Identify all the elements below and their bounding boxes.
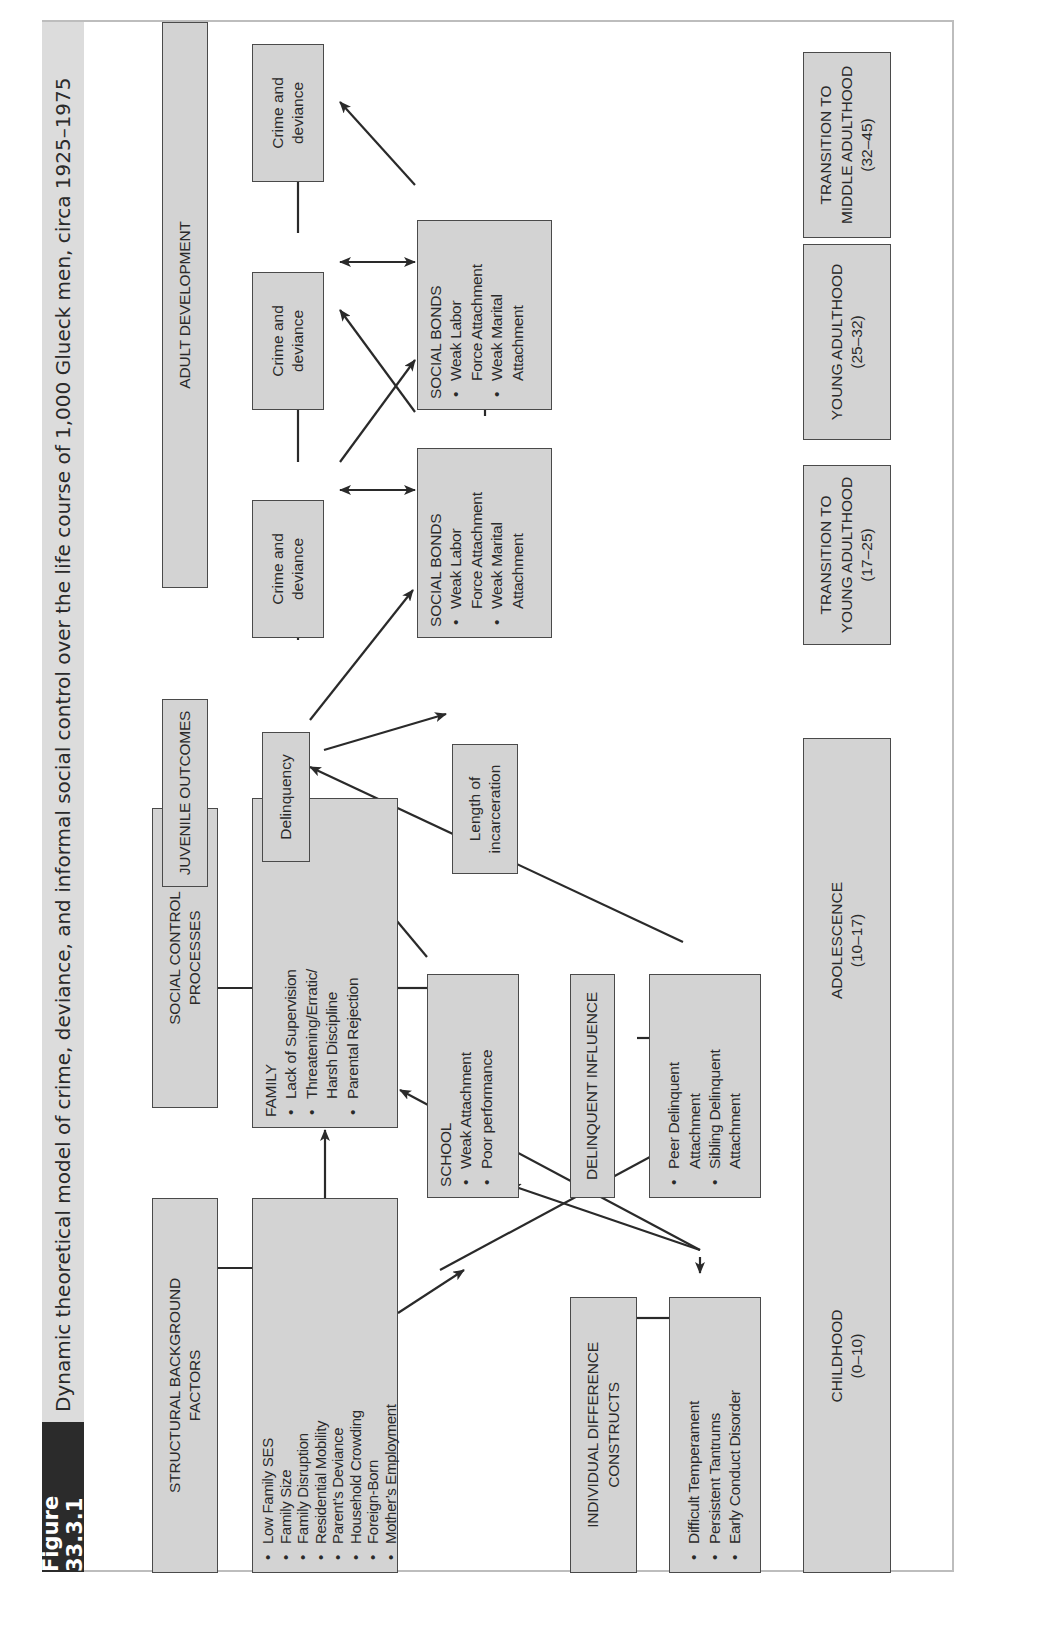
header-line: FACTORS: [185, 1350, 205, 1422]
crime-line: Crime and: [268, 305, 288, 377]
header-individual-difference: INDIVIDUAL DIFFERENCE CONSTRUCTS: [570, 1297, 637, 1573]
header-adult-development: ADULT DEVELOPMENT: [162, 22, 208, 588]
individual-constructs-box: Difficult Temperament Persistent Tantrum…: [669, 1297, 761, 1573]
arrow-bonds2-crime3: [340, 102, 415, 185]
individual-item: Difficult Temperament: [684, 1390, 704, 1562]
delinquent-influence-item: Sibling Delinquent Attachment: [705, 1039, 746, 1187]
timeline-young-adulthood: YOUNG ADULTHOOD (25–32): [803, 244, 891, 440]
crime-deviance-box-1: Crime and deviance: [252, 500, 324, 638]
arrow-delinquency-bonds1: [310, 590, 413, 720]
timeline-range: (32–45): [857, 118, 877, 171]
arrow-crime1-bonds2: [340, 360, 415, 462]
structural-item: Residential Mobility: [312, 1209, 330, 1562]
header-line: ADULT DEVELOPMENT: [175, 221, 195, 388]
individual-item: Early Conduct Disorder: [725, 1390, 745, 1562]
school-item: Poor performance: [477, 985, 497, 1187]
header-delinquent-influence: DELINQUENT INFLUENCE: [570, 974, 615, 1198]
timeline-transition-middle-adulthood: TRANSITION TO MIDDLE ADULTHOOD (32–45): [803, 52, 891, 238]
family-item: Parental Rejection: [343, 809, 363, 1117]
structural-factors-box: Low Family SES Family Size Family Disrup…: [252, 1198, 398, 1573]
incarceration-line: Length of: [465, 777, 485, 842]
structural-item: Foreign-Born: [364, 1209, 382, 1562]
timeline-adolescence: ADOLESCENCE (10–17): [803, 738, 891, 1142]
figure-canvas: Figure 33.3.1 Dynamic theoretical model …: [0, 0, 1038, 1650]
incarceration-line: incarceration: [485, 765, 505, 854]
structural-item: Mother’s Employment: [382, 1209, 400, 1562]
social-bonds-title: SOCIAL BONDS: [426, 459, 446, 627]
structural-item: Household Crowding: [347, 1209, 365, 1562]
social-bonds-box-2: SOCIAL BONDS Weak Labor Force Attachment…: [417, 220, 552, 410]
header-line: INDIVIDUAL DIFFERENCE: [583, 1342, 603, 1528]
crime-line: deviance: [288, 310, 308, 372]
arrow-structural-school: [398, 1270, 464, 1313]
social-bonds-item: Weak Labor Force Attachment: [446, 489, 487, 627]
timeline-label: ADOLESCENCE: [827, 882, 847, 999]
timeline-range: (25–32): [847, 315, 867, 368]
social-bonds-item: Weak Labor Force Attachment: [446, 261, 487, 399]
crime-line: Crime and: [268, 77, 288, 149]
timeline-range: (10–17): [847, 914, 867, 967]
social-bonds-item: Weak Marital Attachment: [487, 271, 528, 399]
timeline-label: TRANSITION TO: [816, 495, 836, 614]
individual-item: Persistent Tantrums: [705, 1390, 725, 1562]
timeline-label: YOUNG ADULTHOOD: [837, 477, 857, 633]
delinquent-influence-box: Peer Delinquent Attachment Sibling Delin…: [649, 974, 761, 1198]
header-line: DELINQUENT INFLUENCE: [582, 992, 602, 1180]
timeline-label: CHILDHOOD: [827, 1310, 847, 1403]
timeline-childhood: CHILDHOOD (0–10): [803, 1140, 891, 1573]
delinquency-label: Delinquency: [276, 754, 296, 839]
header-line: JUVENILE OUTCOMES: [175, 711, 195, 876]
timeline-label: YOUNG ADULTHOOD: [827, 264, 847, 420]
timeline-range: (17–25): [857, 528, 877, 581]
header-juvenile-outcomes: JUVENILE OUTCOMES: [162, 699, 208, 887]
arrow-bonds1-crime2: [340, 310, 415, 412]
structural-item: Parent’s Deviance: [329, 1209, 347, 1562]
social-bonds-box-1: SOCIAL BONDS Weak Labor Force Attachment…: [417, 448, 552, 638]
header-line: CONSTRUCTS: [604, 1382, 624, 1488]
school-title: SCHOOL: [436, 985, 456, 1187]
social-bonds-title: SOCIAL BONDS: [426, 231, 446, 399]
timeline-label: MIDDLE ADULTHOOD: [837, 66, 857, 224]
crime-deviance-box-2: Crime and deviance: [252, 272, 324, 410]
structural-item: Family Disruption: [294, 1209, 312, 1562]
header-structural-background: STRUCTURAL BACKGROUND FACTORS: [152, 1198, 218, 1573]
delinquency-box: Delinquency: [262, 732, 310, 862]
timeline-transition-young-adulthood: TRANSITION TO YOUNG ADULTHOOD (17–25): [803, 465, 891, 645]
family-item: Threatening/Erratic/ Harsh Discipline: [302, 969, 343, 1117]
structural-item: Low Family SES: [259, 1209, 277, 1562]
delinquent-influence-item: Peer Delinquent Attachment: [664, 1049, 705, 1187]
crime-line: Crime and: [268, 533, 288, 605]
crime-line: deviance: [288, 538, 308, 600]
arrow-delinquency-incarceration: [324, 714, 446, 750]
header-line: PROCESSES: [185, 911, 205, 1006]
incarceration-box: Length of incarceration: [452, 744, 518, 874]
timeline-label: TRANSITION TO: [816, 85, 836, 204]
header-line: SOCIAL CONTROL: [165, 891, 185, 1025]
crime-deviance-box-3: Crime and deviance: [252, 44, 324, 182]
structural-item: Family Size: [277, 1209, 295, 1562]
header-line: STRUCTURAL BACKGROUND: [165, 1278, 185, 1493]
school-item: Weak Attachment: [456, 985, 476, 1187]
social-bonds-item: Weak Marital Attachment: [487, 499, 528, 627]
crime-line: deviance: [288, 82, 308, 144]
school-box: SCHOOL Weak Attachment Poor performance: [427, 974, 519, 1198]
timeline-range: (0–10): [847, 1334, 867, 1379]
